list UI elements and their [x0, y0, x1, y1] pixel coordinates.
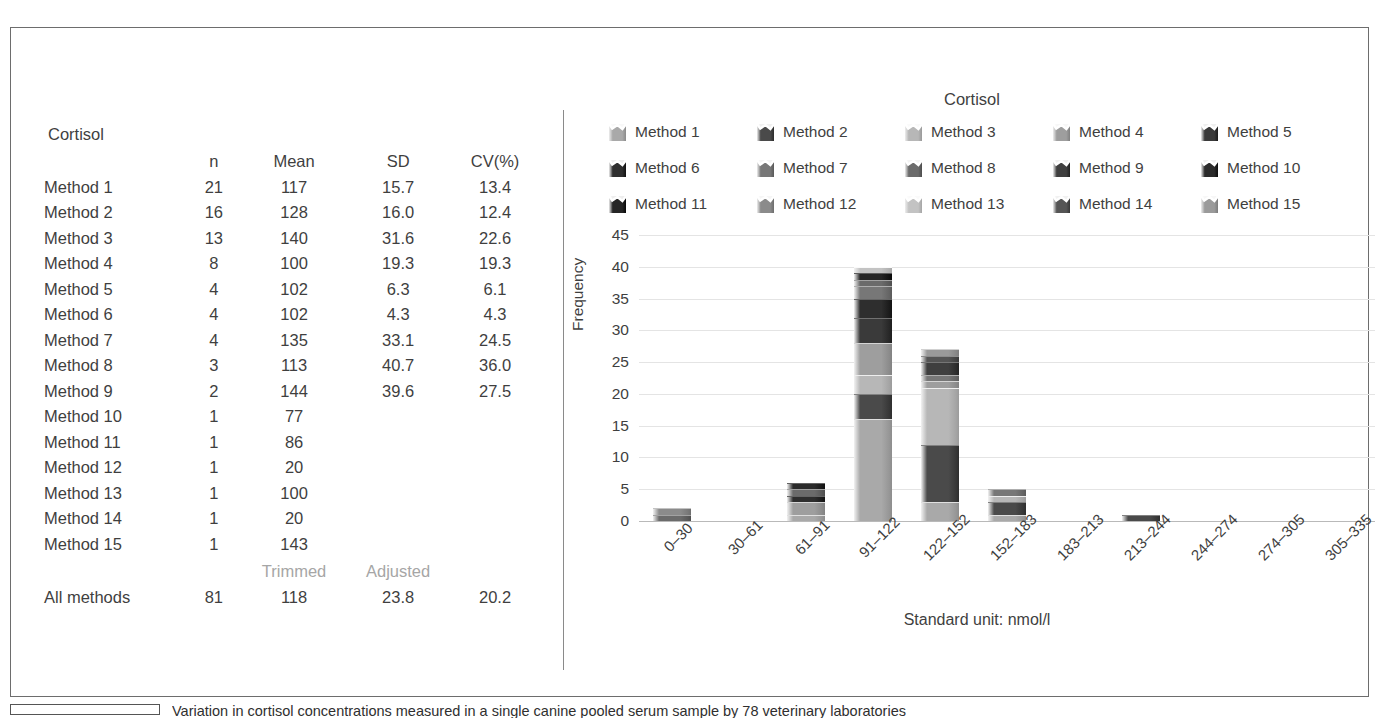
cell-sd	[346, 532, 450, 558]
column-header	[44, 149, 186, 175]
cell-n: 1	[186, 455, 242, 481]
summary-mean: 118	[242, 585, 346, 611]
bar-slot	[974, 235, 1041, 521]
table-row: Method 12111715.713.4	[44, 175, 540, 201]
cell-sd	[346, 430, 450, 456]
table-row: Method 14120	[44, 506, 540, 532]
y-tick-label: 20	[599, 389, 629, 399]
chart-legend: Method 1Method 2Method 3Method 4Method 5…	[609, 123, 1383, 213]
row-label: Method 11	[44, 430, 186, 456]
table-summary-row: All methods8111823.820.2	[44, 585, 540, 611]
cell-sd	[346, 506, 450, 532]
cell-mean: 113	[242, 353, 346, 379]
row-label: Method 2	[44, 200, 186, 226]
legend-item-method-10[interactable]: Method 10	[1201, 159, 1349, 177]
legend-item-method-9[interactable]: Method 9	[1053, 159, 1201, 177]
subcolumn-header	[186, 557, 242, 585]
cell-mean: 140	[242, 226, 346, 252]
x-tick-slot: 0–30	[639, 527, 706, 607]
bar-slot	[639, 235, 706, 521]
cell-cv	[450, 455, 540, 481]
cell-mean: 117	[242, 175, 346, 201]
cell-sd	[346, 455, 450, 481]
cell-mean: 102	[242, 302, 346, 328]
table-row: Method 31314031.622.6	[44, 226, 540, 252]
legend-swatch-icon	[1201, 160, 1218, 177]
chart-panel: Cortisol Method 1Method 2Method 3Method …	[571, 80, 1383, 680]
cell-n: 8	[186, 251, 242, 277]
cell-cv	[450, 430, 540, 456]
summary-table-panel: Cortisol nMeanSDCV(%)Method 12111715.713…	[44, 123, 544, 610]
cell-n: 4	[186, 277, 242, 303]
legend-item-method-8[interactable]: Method 8	[905, 159, 1053, 177]
cell-sd: 39.6	[346, 379, 450, 405]
y-tick-label: 15	[599, 421, 629, 431]
legend-item-method-13[interactable]: Method 13	[905, 195, 1053, 213]
subcolumn-header: Trimmed	[242, 557, 346, 585]
legend-label: Method 8	[931, 159, 996, 177]
legend-swatch-icon	[1053, 160, 1070, 177]
cell-cv: 19.3	[450, 251, 540, 277]
cell-cv: 36.0	[450, 353, 540, 379]
cell-sd: 19.3	[346, 251, 450, 277]
legend-item-method-4[interactable]: Method 4	[1053, 123, 1201, 141]
table-subheader-row: TrimmedAdjusted	[44, 557, 540, 585]
row-label: Method 9	[44, 379, 186, 405]
bar-segment	[988, 502, 1026, 515]
x-tick-slot: 274–305	[1241, 527, 1308, 607]
legend-item-method-11[interactable]: Method 11	[609, 195, 757, 213]
y-tick-label: 35	[599, 294, 629, 304]
cell-mean: 86	[242, 430, 346, 456]
column-header: SD	[346, 149, 450, 175]
legend-item-method-14[interactable]: Method 14	[1053, 195, 1201, 213]
y-tick-label: 25	[599, 357, 629, 367]
subcolumn-header: Adjusted	[346, 557, 450, 585]
legend-item-method-3[interactable]: Method 3	[905, 123, 1053, 141]
x-tick-slot: 152–183	[974, 527, 1041, 607]
legend-item-method-6[interactable]: Method 6	[609, 159, 757, 177]
row-label: Method 3	[44, 226, 186, 252]
legend-item-method-7[interactable]: Method 7	[757, 159, 905, 177]
cell-sd: 40.7	[346, 353, 450, 379]
bar-slot	[1040, 235, 1107, 521]
table-header-row: nMeanSDCV(%)	[44, 149, 540, 175]
stacked-bar[interactable]	[854, 267, 892, 521]
stacked-bar[interactable]	[921, 349, 959, 521]
legend-item-method-15[interactable]: Method 15	[1201, 195, 1349, 213]
legend-label: Method 14	[1079, 195, 1152, 213]
cell-mean: 143	[242, 532, 346, 558]
legend-item-method-12[interactable]: Method 12	[757, 195, 905, 213]
legend-item-method-5[interactable]: Method 5	[1201, 123, 1349, 141]
cell-mean: 77	[242, 404, 346, 430]
table-row: Method 8311340.736.0	[44, 353, 540, 379]
x-tick-slot: 305–335	[1308, 527, 1375, 607]
legend-swatch-icon	[757, 160, 774, 177]
bar-segment	[854, 419, 892, 521]
cell-cv: 24.5	[450, 328, 540, 354]
table-row: Method 21612816.012.4	[44, 200, 540, 226]
cell-cv	[450, 506, 540, 532]
legend-item-method-2[interactable]: Method 2	[757, 123, 905, 141]
cell-n: 4	[186, 328, 242, 354]
cell-sd: 6.3	[346, 277, 450, 303]
y-tick-label: 0	[599, 516, 629, 526]
legend-item-method-1[interactable]: Method 1	[609, 123, 757, 141]
stacked-bar[interactable]	[653, 508, 691, 521]
cell-n: 3	[186, 353, 242, 379]
row-label: Method 6	[44, 302, 186, 328]
legend-swatch-icon	[1053, 124, 1070, 141]
row-label: Method 12	[44, 455, 186, 481]
stacked-bar[interactable]	[787, 483, 825, 521]
legend-label: Method 7	[783, 159, 848, 177]
table-row: Method 151143	[44, 532, 540, 558]
cell-cv: 13.4	[450, 175, 540, 201]
legend-swatch-icon	[609, 124, 626, 141]
table-row: Method 12120	[44, 455, 540, 481]
cell-n: 1	[186, 532, 242, 558]
row-label: Method 13	[44, 481, 186, 507]
column-header: n	[186, 149, 242, 175]
y-axis-label: Frequency	[569, 258, 587, 331]
cell-mean: 100	[242, 251, 346, 277]
bar-slot	[1107, 235, 1174, 521]
